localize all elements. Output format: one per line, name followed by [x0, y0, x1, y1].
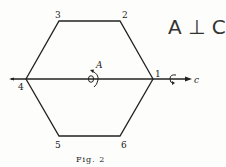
vertex-label-4: 4: [18, 82, 24, 92]
axis-a-label: A: [95, 60, 103, 70]
perpendicular-annotation: A ⊥ C: [168, 15, 226, 39]
left-arrowhead-icon: [9, 78, 14, 81]
vertex-label-6: 6: [121, 140, 127, 150]
vertex-label-3: 3: [55, 10, 61, 20]
figure-caption: Fig. 2: [76, 155, 105, 164]
rotation-arrow-a-head-icon: [90, 70, 94, 74]
hexagon-diagram: 1 2 3 4 5 6 A c A ⊥ C Fig. 2: [0, 0, 226, 167]
vertex-label-5: 5: [55, 140, 61, 150]
vertex-label-2: 2: [122, 10, 128, 20]
right-arrowhead-icon: [185, 77, 192, 82]
rotation-arrow-c-head-icon: [172, 81, 175, 85]
vertex-label-1: 1: [155, 69, 161, 79]
axis-c-label: c: [194, 75, 199, 85]
